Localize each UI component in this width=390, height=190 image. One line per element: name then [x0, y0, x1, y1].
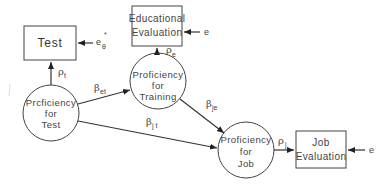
scan-artifact — [9, 84, 10, 96]
test-error-sup: * — [104, 31, 107, 38]
job-eval-label-line1: Job — [312, 137, 329, 148]
rho-t-sub: t — [64, 72, 66, 79]
rho-j-sub: j — [284, 141, 287, 149]
proficiency-for-test-node: Prcficiency for Test — [23, 85, 79, 141]
prof-test-line3: Test — [41, 119, 60, 130]
prof-test-line2: for — [45, 108, 57, 119]
test-error-label: e — [96, 37, 101, 47]
test-error-sub: θ — [102, 43, 106, 50]
job-eval-error-label: e — [369, 145, 374, 155]
prof-training-line3: Training — [139, 91, 176, 102]
job-eval-label-line2: Evaluation — [296, 151, 347, 162]
proficiency-for-training-node: Proficiency for Training — [130, 53, 186, 109]
edu-eval-label-line1: Educational — [129, 13, 186, 24]
path-diagram: Test e θ * Educational Evaluation e Job … — [0, 0, 390, 190]
test-label: Test — [37, 36, 62, 50]
prof-training-line1: Proficiency — [133, 69, 184, 80]
rho-j-symbol: ρ — [278, 135, 284, 146]
educational-evaluation-box: Educational Evaluation — [129, 6, 186, 46]
beta-et-sub: et — [100, 88, 106, 95]
rho-e-sub: e — [172, 51, 176, 58]
job-evaluation-box: Job Evaluation — [296, 131, 347, 168]
edu-eval-label-line2: Evaluation — [132, 27, 183, 38]
proficiency-for-job-node: Proficiency for Job — [218, 122, 274, 178]
prof-job-line3: Job — [238, 158, 255, 169]
test-box: Test — [24, 26, 76, 60]
prof-job-line2: for — [240, 146, 252, 157]
prof-training-line2: for — [152, 80, 164, 91]
beta-je-sub: je — [211, 104, 218, 112]
edu-eval-error-label: e — [204, 27, 209, 37]
prof-test-line1: Prcficiency — [26, 97, 76, 108]
prof-job-line1: Proficiency — [221, 134, 272, 145]
beta-jt-sub: j t — [151, 122, 158, 130]
